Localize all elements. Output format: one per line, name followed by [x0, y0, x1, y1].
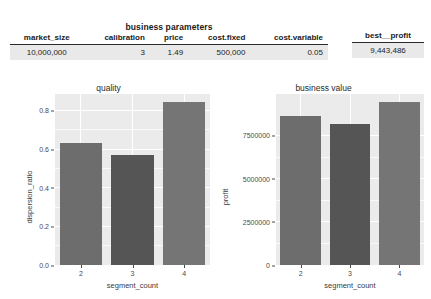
table-header-row: market_size calibration price cost.fixed… [10, 32, 328, 45]
chart-business-value-body: profit 0250000050000007500000 234 segmen… [216, 94, 431, 299]
x-tick-label: 4 [397, 270, 401, 277]
business-parameters-table: market_size calibration price cost.fixed… [10, 32, 328, 60]
column-header-cost-fixed: cost.fixed [188, 32, 250, 45]
cell-cost-fixed: 500,000 [188, 45, 250, 61]
chart-business-value-title: business value [216, 80, 431, 94]
table-header-row: best__profit [352, 30, 424, 43]
bar [379, 102, 419, 265]
x-tick-mark [184, 265, 185, 268]
cell-best-profit: 9,443,486 [352, 43, 424, 59]
chart-quality-plot-panel [55, 94, 210, 265]
x-tick-mark [350, 265, 351, 268]
x-tick-label: 2 [79, 270, 83, 277]
chart-business-value-x-axis-label: segment_count [276, 281, 424, 298]
cell-cost-variable: 0.05 [250, 45, 328, 61]
y-tick-label: 2500000 [243, 218, 275, 225]
best-profit-table-wrap: best__profit 9,443,486 [352, 30, 424, 58]
y-tick-label: 0.6 [39, 146, 54, 153]
x-tick-label: 3 [131, 270, 135, 277]
chart-quality-x-axis-label: segment_count [55, 281, 210, 298]
column-header-best-profit: best__profit [352, 30, 424, 43]
chart-business-value: business value profit 025000005000000750… [216, 80, 431, 299]
y-tick-label: 0.2 [39, 223, 54, 230]
y-tick-label: 0 [266, 262, 275, 269]
cell-price: 1.49 [150, 45, 188, 61]
x-tick-mark [81, 265, 82, 268]
chart-quality-y-ticks: 0.00.20.40.60.8 [2, 94, 54, 265]
business-parameters-table-wrap: business parameters market_size calibrat… [10, 22, 328, 60]
column-header-price: price [150, 32, 188, 45]
x-tick-mark [399, 265, 400, 268]
chart-business-value-plot-panel [276, 94, 424, 265]
y-tick-label: 0.4 [39, 184, 54, 191]
y-tick-label: 0.0 [39, 262, 54, 269]
best-profit-table: best__profit 9,443,486 [352, 30, 424, 58]
column-header-cost-variable: cost.variable [250, 32, 328, 45]
x-tick-mark [301, 265, 302, 268]
column-header-market-size: market_size [10, 32, 83, 45]
x-tick-mark [133, 265, 134, 268]
table-row: 9,443,486 [352, 43, 424, 59]
chart-quality-title: quality [2, 80, 215, 94]
bar [280, 116, 320, 265]
bar [330, 124, 370, 265]
x-tick-label: 4 [182, 270, 186, 277]
table-row: 10,000,000 3 1.49 500,000 0.05 [10, 45, 328, 61]
bar [60, 143, 102, 265]
x-tick-label: 3 [348, 270, 352, 277]
chart-business-value-y-ticks: 0250000050000007500000 [216, 94, 275, 265]
parameter-tables-region: business parameters market_size calibrat… [0, 0, 431, 70]
x-tick-label: 2 [299, 270, 303, 277]
chart-quality: quality dispersion_ratio 0.00.20.40.60.8… [2, 80, 215, 299]
cell-market-size: 10,000,000 [10, 45, 83, 61]
column-header-calibration: calibration [83, 32, 149, 45]
bar [111, 155, 153, 265]
business-parameters-title: business parameters [10, 22, 328, 32]
y-tick-label: 0.8 [39, 107, 54, 114]
y-tick-label: 5000000 [243, 175, 275, 182]
cell-calibration: 3 [83, 45, 149, 61]
bar [163, 102, 205, 265]
y-tick-label: 7500000 [243, 132, 275, 139]
chart-quality-body: dispersion_ratio 0.00.20.40.60.8 234 seg… [2, 94, 215, 299]
